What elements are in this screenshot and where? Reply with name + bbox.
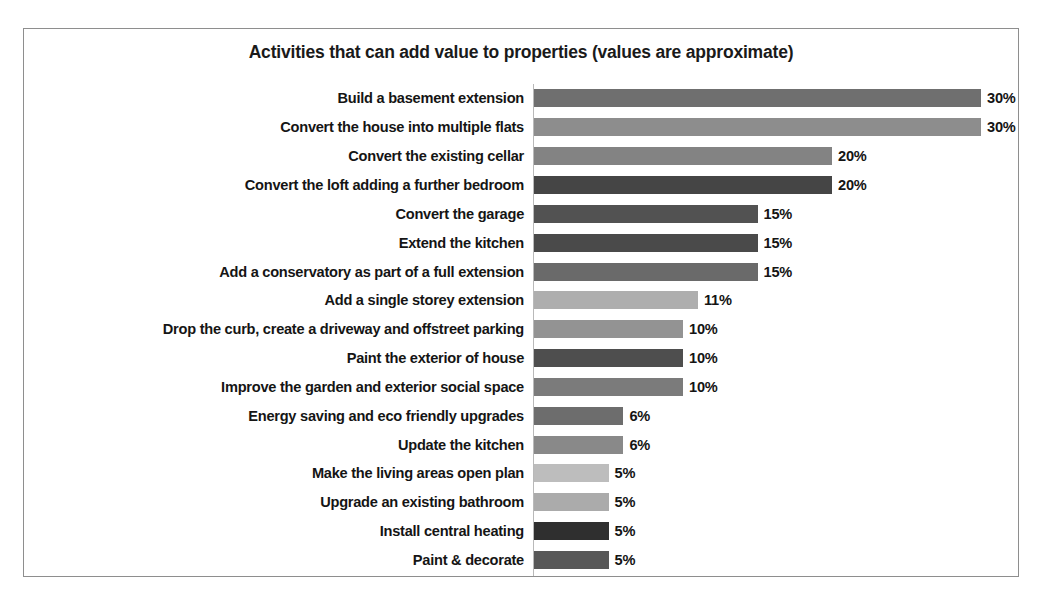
bar-category-label: Convert the existing cellar — [24, 142, 533, 171]
bar-track: 5% — [534, 459, 1018, 488]
bar-value-label: 10% — [689, 350, 718, 366]
bar-row: Upgrade an existing bathroom5% — [24, 488, 1018, 517]
bar-value-label: 6% — [629, 408, 650, 424]
bar-track: 15% — [534, 228, 1018, 257]
bar-track: 30% — [534, 113, 1018, 142]
bar-value-label: 5% — [615, 523, 636, 539]
bar-category-label: Upgrade an existing bathroom — [24, 488, 533, 517]
bar-row: Paint the exterior of house10% — [24, 344, 1018, 373]
bar-value-label: 15% — [764, 206, 793, 222]
bar-track: 5% — [534, 546, 1018, 575]
bar-track: 5% — [534, 488, 1018, 517]
bar — [534, 378, 683, 396]
bar-row: Install central heating5% — [24, 517, 1018, 546]
bar-row: Energy saving and eco friendly upgrades6… — [24, 401, 1018, 430]
bar-track: 15% — [534, 257, 1018, 286]
bar-category-label: Update the kitchen — [24, 430, 533, 459]
chart-frame: Activities that can add value to propert… — [23, 28, 1019, 577]
bar-track: 10% — [534, 344, 1018, 373]
plot-area: Build a basement extension30%Convert the… — [24, 84, 1018, 574]
bar-category-label: Paint & decorate — [24, 546, 533, 575]
bar — [534, 436, 623, 454]
bar-category-label: Paint the exterior of house — [24, 344, 533, 373]
bar — [534, 349, 683, 367]
bar-category-label: Convert the loft adding a further bedroo… — [24, 171, 533, 200]
bar-value-label: 15% — [764, 235, 793, 251]
bar-track: 6% — [534, 401, 1018, 430]
bar-value-label: 5% — [615, 494, 636, 510]
bar-row: Add a single storey extension11% — [24, 286, 1018, 315]
bar — [534, 551, 609, 569]
bar-value-label: 30% — [987, 90, 1016, 106]
bar — [534, 291, 698, 309]
bar — [534, 522, 609, 540]
bar-value-label: 30% — [987, 119, 1016, 135]
bar-track: 20% — [534, 171, 1018, 200]
bar-row: Make the living areas open plan5% — [24, 459, 1018, 488]
bar-value-label: 10% — [689, 379, 718, 395]
bar-value-label: 10% — [689, 321, 718, 337]
bar-value-label: 15% — [764, 264, 793, 280]
bar-value-label: 11% — [704, 292, 732, 308]
bar — [534, 89, 981, 107]
bar-value-label: 20% — [838, 177, 867, 193]
bar — [534, 147, 832, 165]
bar-category-label: Drop the curb, create a driveway and off… — [24, 315, 533, 344]
bar-value-label: 5% — [615, 552, 636, 568]
bar — [534, 234, 758, 252]
bar-row: Add a conservatory as part of a full ext… — [24, 257, 1018, 286]
bar-row: Update the kitchen6% — [24, 430, 1018, 459]
bar-track: 20% — [534, 142, 1018, 171]
bar — [534, 493, 609, 511]
bar-row: Convert the loft adding a further bedroo… — [24, 171, 1018, 200]
bar-category-label: Add a single storey extension — [24, 286, 533, 315]
bar-category-label: Install central heating — [24, 517, 533, 546]
bar-row: Improve the garden and exterior social s… — [24, 373, 1018, 402]
bar — [534, 176, 832, 194]
bar — [534, 118, 981, 136]
bar-category-label: Extend the kitchen — [24, 228, 533, 257]
bar-track: 6% — [534, 430, 1018, 459]
bar-category-label: Make the living areas open plan — [24, 459, 533, 488]
bar-row: Build a basement extension30% — [24, 84, 1018, 113]
bar — [534, 320, 683, 338]
bar-row: Convert the garage15% — [24, 199, 1018, 228]
bar-category-label: Improve the garden and exterior social s… — [24, 373, 533, 402]
bar-track: 10% — [534, 373, 1018, 402]
bar-category-label: Energy saving and eco friendly upgrades — [24, 401, 533, 430]
bar-row: Convert the existing cellar20% — [24, 142, 1018, 171]
bar — [534, 407, 623, 425]
bar-category-label: Add a conservatory as part of a full ext… — [24, 257, 533, 286]
bar-track: 11% — [534, 286, 1018, 315]
bar-row: Paint & decorate5% — [24, 546, 1018, 575]
bar-category-label: Convert the house into multiple flats — [24, 113, 533, 142]
bar-category-label: Convert the garage — [24, 199, 533, 228]
bar — [534, 205, 758, 223]
bar-value-label: 5% — [615, 465, 636, 481]
chart-title: Activities that can add value to propert… — [24, 42, 1018, 63]
bar-value-label: 20% — [838, 148, 867, 164]
bar-track: 30% — [534, 84, 1018, 113]
bar-row: Convert the house into multiple flats30% — [24, 113, 1018, 142]
bar-value-label: 6% — [629, 437, 650, 453]
bar-row: Drop the curb, create a driveway and off… — [24, 315, 1018, 344]
bar-category-label: Build a basement extension — [24, 84, 533, 113]
bar-track: 5% — [534, 517, 1018, 546]
bar-row: Extend the kitchen15% — [24, 228, 1018, 257]
bar — [534, 464, 609, 482]
bar — [534, 263, 758, 281]
bar-track: 15% — [534, 199, 1018, 228]
bar-track: 10% — [534, 315, 1018, 344]
